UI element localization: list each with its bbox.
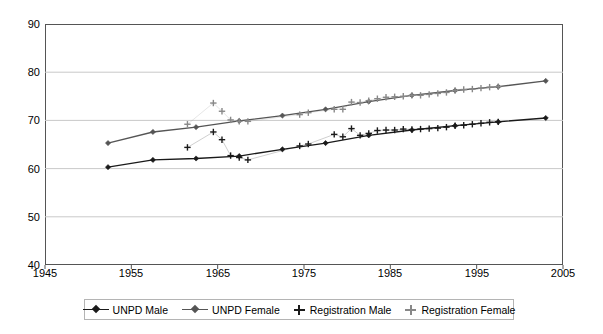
diamond-line-icon [182,305,208,315]
data-point-plus [452,123,458,129]
data-point-plus [366,97,372,103]
data-point-plus [469,86,475,92]
data-point-diamond [150,157,155,162]
data-point-plus [461,122,467,128]
data-point-plus [495,119,501,125]
data-point-plus [374,127,380,133]
data-point-plus [426,91,432,97]
data-point-plus [469,121,475,127]
data-point-diamond [323,107,328,112]
legend-item-unpd-male: UNPD Male [83,304,168,316]
legend-item-unpd-female: UNPD Female [182,304,280,316]
legend-item-registration-male: Registration Male [294,304,392,316]
data-point-plus [443,124,449,130]
legend-item-registration-female: Registration Female [405,304,515,316]
data-point-plus [409,92,415,98]
life-expectancy-chart: 90 80 70 60 50 40 1945 1955 1965 1975 19… [0,0,603,334]
data-point-diamond [193,156,198,161]
data-point-plus [417,92,423,98]
diamond-line-icon [83,305,109,315]
chart-series-layer [0,0,603,334]
series-line [108,81,546,143]
data-point-plus [409,126,415,132]
legend-label-registration-male: Registration Male [310,304,392,316]
legend-label-unpd-female: UNPD Female [212,304,280,316]
data-point-plus [245,157,251,163]
data-point-plus [435,90,441,96]
data-point-diamond [105,140,110,145]
data-point-plus [331,131,337,137]
data-point-diamond [543,115,548,120]
data-point-plus [296,143,302,149]
data-point-plus [236,118,242,124]
data-point-plus [461,86,467,92]
data-point-diamond [323,140,328,145]
data-point-plus [184,121,190,127]
data-point-plus [452,87,458,93]
plus-icon [294,305,306,315]
data-point-diamond [150,129,155,134]
data-point-plus [443,89,449,95]
data-point-plus [486,84,492,90]
data-point-plus [305,109,311,115]
series-connector [188,122,499,160]
legend-label-unpd-male: UNPD Male [113,304,168,316]
data-point-plus [400,93,406,99]
plus-icon [405,305,417,315]
data-point-plus [357,99,363,105]
data-point-plus [495,83,501,89]
data-point-plus [478,85,484,91]
data-point-plus [435,125,441,131]
data-point-plus [478,120,484,126]
data-point-plus [184,144,190,150]
data-point-plus [391,94,397,100]
data-point-diamond [543,78,548,83]
data-point-plus [227,152,233,158]
data-point-plus [426,125,432,131]
chart-legend: UNPD Male UNPD Female Registration Male … [84,299,514,320]
series-connector [188,87,499,125]
data-point-plus [417,126,423,132]
legend-label-registration-female: Registration Female [421,304,515,316]
data-point-diamond [193,125,198,130]
